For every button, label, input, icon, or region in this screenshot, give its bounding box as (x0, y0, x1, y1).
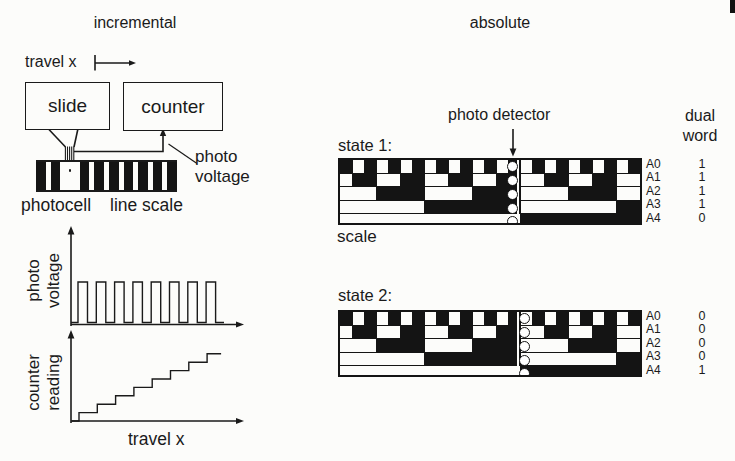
encoder-black-cell (460, 312, 473, 325)
encoder-black-cell (532, 312, 545, 325)
encoder-black-cell (580, 312, 593, 325)
encoder-black-cell (604, 326, 617, 339)
encoder-black-cell (496, 326, 509, 339)
encoder-black-cell (628, 366, 640, 377)
encoder-black-cell (616, 353, 629, 366)
encoder-black-cell (364, 326, 377, 339)
encoder-black-cell (484, 353, 497, 366)
state2-track-labels: A0A1A2A3A4 (646, 310, 668, 377)
encoder-black-cell (448, 174, 461, 187)
encoder-track-A3 (340, 353, 640, 367)
track-label: A3 (646, 350, 668, 363)
encoder-black-cell (376, 339, 389, 352)
photo-voltage-line1: photo (195, 147, 250, 167)
encoder-track-A0 (340, 312, 640, 326)
encoder-black-cell (388, 339, 401, 352)
counter-box: counter (123, 82, 223, 131)
funnel-left (48, 129, 66, 148)
dual-word-bit: 1 (690, 364, 714, 377)
encoder-scale-state2 (338, 310, 642, 377)
photo-detector-dot-icon (507, 203, 518, 214)
encoder-black-cell (544, 174, 557, 187)
encoder-black-cell (544, 366, 557, 377)
encoder-black-cell (580, 214, 593, 225)
encoder-black-cell (484, 160, 497, 173)
encoder-black-cell (604, 366, 617, 377)
state2-dual-word-bits: 00001 (690, 310, 714, 377)
encoder-black-cell (604, 187, 617, 200)
encoder-black-cell (604, 214, 617, 225)
encoder-figure: incremental travel x slide counter photo… (0, 0, 735, 461)
photocell-neck-hatch (65, 147, 73, 161)
track-label: A1 (646, 323, 668, 336)
encoder-black-cell (628, 160, 640, 173)
photo-detector-dot-icon (507, 189, 518, 200)
encoder-black-cell (424, 201, 437, 214)
encoder-black-cell (568, 187, 581, 200)
track-label: A2 (646, 337, 668, 350)
encoder-black-cell (556, 160, 569, 173)
encoder-black-cell (568, 214, 581, 225)
encoder-track-A2 (340, 187, 640, 201)
dual-word-bit: 0 (690, 310, 714, 323)
encoder-black-cell (592, 214, 605, 225)
encoder-black-cell (388, 160, 401, 173)
encoder-black-cell (592, 366, 605, 377)
photo-detector-dot-icon (519, 341, 530, 352)
encoder-scale-state1 (338, 158, 642, 225)
encoder-black-cell (412, 312, 425, 325)
encoder-black-cell (568, 339, 581, 352)
encoder-black-cell (616, 201, 629, 214)
encoder-black-cell (340, 160, 353, 173)
encoder-black-cell (412, 339, 425, 352)
encoder-track-A0 (340, 160, 640, 174)
encoder-black-cell (388, 187, 401, 200)
photo-detector-dot-icon (507, 161, 518, 172)
funnel-right (74, 129, 78, 148)
encoder-black-cell (400, 339, 413, 352)
encoder-black-cell (532, 160, 545, 173)
encoder-black-cell (412, 187, 425, 200)
state1-dual-word-bits: 11110 (690, 158, 714, 225)
encoder-black-cell (604, 160, 617, 173)
track-label: A0 (646, 310, 668, 323)
encoder-black-cell (580, 339, 593, 352)
encoder-black-cell (364, 174, 377, 187)
encoder-black-cell (580, 366, 593, 377)
photo-detector-dot-icon (519, 327, 530, 338)
encoder-black-cell (616, 366, 629, 377)
dual-word-bit: 0 (690, 337, 714, 350)
photo-voltage-leader (169, 144, 198, 164)
dual-word-bit: 1 (690, 185, 714, 198)
track-label: A1 (646, 171, 668, 184)
encoder-black-cell (604, 174, 617, 187)
pv-square-wave (71, 282, 224, 323)
encoder-black-cell (448, 353, 461, 366)
encoder-black-cell (544, 326, 557, 339)
photo-detector-arrowhead-icon (510, 149, 517, 157)
encoder-black-cell (604, 339, 617, 352)
photo-voltage-callout: photo voltage (195, 147, 250, 186)
encoder-black-cell (352, 326, 365, 339)
encoder-black-cell (352, 174, 365, 187)
encoder-black-cell (340, 312, 353, 325)
photo-detector-dot-icon (519, 368, 530, 377)
encoder-black-cell (364, 160, 377, 173)
encoder-black-cell (400, 187, 413, 200)
encoder-black-cell (556, 312, 569, 325)
dual-word-bit: 1 (690, 171, 714, 184)
photo-detector-dot-icon (519, 355, 530, 366)
encoder-track-A4 (340, 366, 640, 377)
encoder-black-cell (424, 353, 437, 366)
encoder-black-cell (400, 174, 413, 187)
encoder-black-cell (472, 339, 485, 352)
slide-box: slide (25, 82, 110, 130)
track-label: A3 (646, 198, 668, 211)
encoder-black-cell (604, 312, 617, 325)
track-label: A2 (646, 185, 668, 198)
encoder-black-cell (628, 214, 640, 225)
photo-voltage-wire (74, 134, 163, 152)
encoder-black-cell (556, 214, 569, 225)
encoder-black-cell (616, 214, 629, 225)
diagram-line-art (0, 0, 735, 461)
